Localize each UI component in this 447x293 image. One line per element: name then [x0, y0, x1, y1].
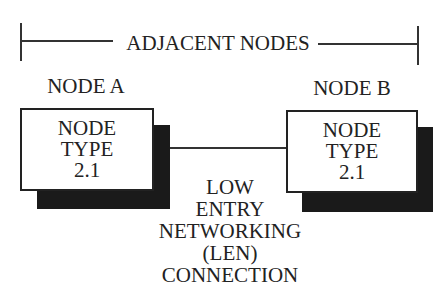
bracket-right-line [318, 43, 418, 45]
node-a-box-line-2: TYPE [61, 139, 114, 160]
node-b-box-line-1: NODE [323, 120, 381, 141]
node-a-title: NODE A [36, 76, 136, 97]
adjacent-nodes-label: ADJACENT NODES [118, 33, 318, 54]
len-connection-line [170, 147, 286, 149]
node-b-title: NODE B [302, 78, 402, 99]
bracket-right-tick [417, 26, 419, 65]
connection-line-4: (LEN) [130, 242, 330, 264]
connection-line-1: LOW [130, 176, 330, 198]
node-a-box-line-3: 2.1 [74, 160, 100, 181]
len-connection-label: LOW ENTRY NETWORKING (LEN) CONNECTION [130, 176, 330, 286]
bracket-left-line [21, 40, 113, 42]
node-b-box-line-2: TYPE [326, 141, 379, 162]
node-a-box-line-1: NODE [58, 118, 116, 139]
connection-line-2: ENTRY [130, 198, 330, 220]
node-b-box-line-3: 2.1 [339, 162, 365, 183]
bracket-left-tick [20, 23, 22, 61]
connection-line-5: CONNECTION [130, 264, 330, 286]
connection-line-3: NETWORKING [130, 220, 330, 242]
